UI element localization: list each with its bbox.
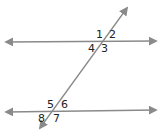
- angle-label-7: 7: [53, 113, 60, 124]
- top-parallel-line: [6, 41, 156, 42]
- angle-label-2: 2: [109, 29, 116, 40]
- transversal-diagram: 1 2 3 4 5 6 7 8: [0, 0, 165, 140]
- diagram-canvas: [0, 0, 165, 140]
- angle-label-8: 8: [38, 113, 45, 124]
- angle-label-3: 3: [101, 43, 108, 54]
- angle-label-6: 6: [61, 99, 68, 110]
- angle-label-1: 1: [96, 29, 103, 40]
- bottom-parallel-line: [6, 110, 156, 112]
- angle-label-5: 5: [47, 99, 54, 110]
- angle-label-4: 4: [88, 43, 95, 54]
